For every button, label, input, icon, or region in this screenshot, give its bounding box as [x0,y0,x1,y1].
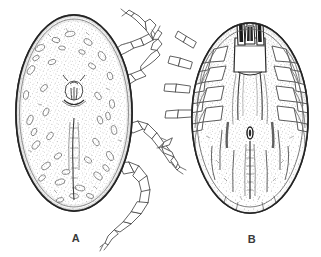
tick-b-genital-aperture [247,127,253,139]
tick-b-leg-2 [178,58,192,69]
panel-a-dorsal-tick [16,9,186,251]
panel-label-a: A [68,233,84,244]
tick-illustration-canvas [0,0,321,257]
tick-b-legs [157,31,196,168]
panel-b-ventral-tick [157,20,309,213]
tick-b-leg-4 [177,110,192,118]
panel-label-b: B [244,234,260,245]
figure-container: A B [0,0,321,257]
tick-b-leg-3 [175,84,190,93]
tick-b-capitulum [234,20,266,75]
